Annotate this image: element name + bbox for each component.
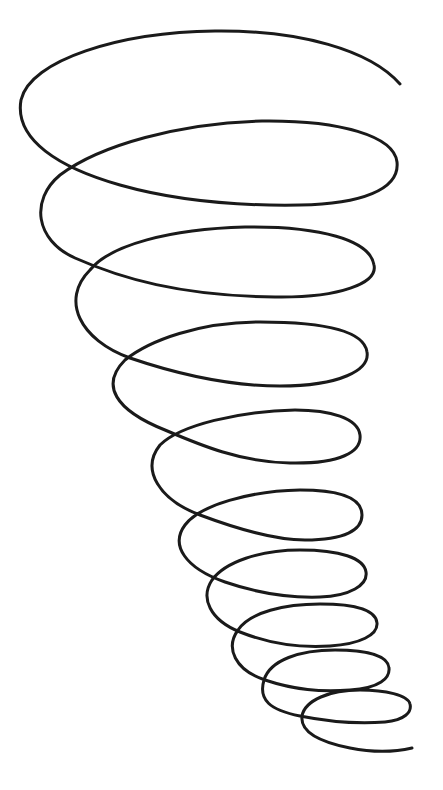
spiral-drawing: [0, 0, 443, 790]
spiral-line: [20, 31, 412, 751]
spiral-svg: [0, 0, 443, 790]
